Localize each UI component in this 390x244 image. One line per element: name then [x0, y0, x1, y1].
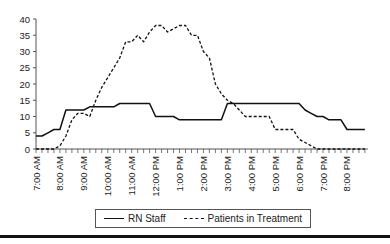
legend-label: Patients in Treatment	[208, 213, 303, 224]
line-chart: 05101520253035407:00 AM8:00 AM9:00 AM10:…	[0, 0, 390, 210]
y-tick-label: 20	[19, 79, 30, 90]
x-tick-label: 2:00 PM	[198, 156, 209, 191]
x-tick-label: 8:00 PM	[341, 156, 352, 191]
series-patients-line	[36, 26, 365, 150]
y-tick-label: 25	[19, 62, 30, 73]
x-tick-label: 5:00 PM	[270, 156, 281, 191]
x-tick-label: 7:00 AM	[31, 156, 42, 191]
x-tick-label: 7:00 PM	[318, 156, 329, 191]
x-tick-label: 12:00 PM	[150, 156, 161, 197]
chart-series	[36, 26, 365, 150]
legend-label: RN Staff	[128, 213, 166, 224]
x-tick-label: 9:00 AM	[78, 156, 89, 191]
legend-item-rn-staff: RN Staff	[104, 213, 166, 224]
chart-legend: RN Staff Patients in Treatment	[95, 209, 311, 228]
x-tick-label: 10:00 AM	[102, 156, 113, 196]
y-tick-label: 15	[19, 95, 30, 106]
y-tick-label: 10	[19, 111, 30, 122]
y-tick-label: 0	[25, 144, 30, 155]
y-tick-label: 35	[19, 30, 30, 41]
solid-line-swatch-icon	[104, 218, 124, 219]
x-tick-label: 3:00 PM	[222, 156, 233, 191]
x-tick-label: 1:00 PM	[174, 156, 185, 191]
chart-axes: 05101520253035407:00 AM8:00 AM9:00 AM10:…	[19, 14, 367, 197]
x-tick-label: 11:00 AM	[126, 156, 137, 196]
y-tick-label: 30	[19, 46, 30, 57]
legend-item-patients: Patients in Treatment	[184, 213, 303, 224]
series-rn-staff-line	[36, 104, 365, 137]
dashed-line-swatch-icon	[184, 218, 204, 219]
x-tick-label: 8:00 AM	[54, 156, 65, 191]
x-tick-label: 4:00 PM	[246, 156, 257, 191]
x-tick-label: 6:00 PM	[294, 156, 305, 191]
y-tick-label: 40	[19, 14, 30, 25]
y-tick-label: 5	[25, 127, 30, 138]
divider	[0, 235, 390, 238]
